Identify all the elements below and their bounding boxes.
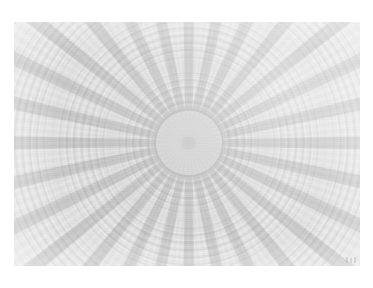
emulsion-corner-mark [345, 256, 357, 264]
page-canvas [0, 0, 373, 288]
dome-photograph [14, 22, 360, 266]
film-grain [14, 22, 360, 266]
